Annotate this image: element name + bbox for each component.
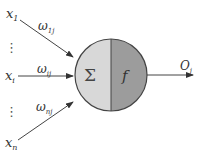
weight-label-ij: ωij [37,62,52,78]
input-label-1: x1 [6,6,18,23]
ellipsis-upper: ⋮ [5,40,18,55]
weight-label-1j: ω1j [38,19,55,35]
activation-half [111,39,147,111]
ellipsis-lower: ⋮ [5,104,18,119]
summation-symbol: Σ [84,65,96,85]
output-label: Oj [180,59,193,75]
weight-label-nj: ωnj [36,100,53,116]
input-label-n: xn [5,135,18,152]
input-label-i: xi [5,68,15,85]
neuron-diagram: x1 xi xn ⋮ ⋮ ω1j ωij ωnj Σ f Oj [0,0,197,156]
